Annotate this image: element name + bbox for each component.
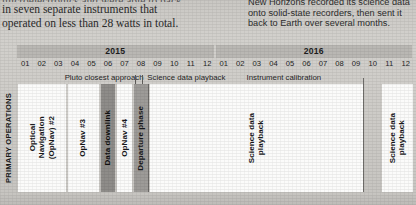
left-line-2: operated on less than 28 watts in total. (2, 16, 224, 30)
timeline-bar-1[interactable]: OpNav #3 (68, 84, 99, 192)
year-label-2016: 2016 (216, 45, 413, 58)
timeline-bar-label-6: Science data playback (388, 113, 407, 163)
timeline-bar-3[interactable]: OpNav #4 (117, 84, 132, 192)
right-text-column: for critical command and navigation, New… (248, 0, 416, 29)
page-bottom-edge (0, 195, 416, 205)
month-tick-2016-03: 03 (249, 58, 266, 70)
timeline-bar-label-5: Science data playback (247, 113, 266, 163)
annotation-2: Instrument calibration (247, 71, 322, 84)
timeline-bar-4[interactable]: Departure phase (134, 84, 149, 192)
timeline-bar-5[interactable]: Science data playback (150, 84, 363, 192)
month-tick-2016-08: 08 (331, 58, 348, 70)
timeline-bar-label-0: Optical Navigation (OpNav) #2 (28, 116, 56, 159)
body-text-region: microelectronics and were able to pack i… (0, 0, 416, 42)
right-line-3: back to Earth over several months. (248, 18, 416, 29)
timeline-bar-6[interactable]: Science data playback (382, 84, 413, 192)
year-band-2015: 2015 (17, 45, 214, 58)
plot-divider-0 (148, 84, 149, 192)
timeline-bar-label-2: Data downlink (103, 110, 112, 166)
month-tick-2015-09: 09 (149, 58, 166, 70)
month-tick-2015-03: 03 (50, 58, 67, 70)
month-tick-2015-02: 02 (34, 58, 51, 70)
month-tick-2016-07: 07 (315, 58, 332, 70)
month-tick-2016-01: 01 (216, 58, 233, 70)
month-tick-2015-10: 10 (166, 58, 183, 70)
month-tick-2016-04: 04 (265, 58, 282, 70)
bars-area: Optical Navigation (OpNav) #2OpNav #3Dat… (0, 84, 416, 196)
left-line-1: in seven separate instruments that (2, 2, 224, 16)
timeline-bar-label-3: OpNav #4 (120, 119, 129, 157)
annotation-row: Pluto closest approachScience data playb… (0, 71, 416, 84)
month-tick-2015-07: 07 (116, 58, 133, 70)
annotation-1: Science data playback (147, 71, 225, 84)
month-tick-2015-08: 08 (133, 58, 150, 70)
month-tick-2015-01: 01 (17, 58, 34, 70)
month-tick-2016-11: 11 (381, 58, 398, 70)
annotation-leader-tick-1 (142, 75, 143, 84)
month-tick-2015-06: 06 (100, 58, 117, 70)
year-band-2016: 2016 (216, 45, 413, 58)
right-line-2: onto solid-state recorders, then sent it (248, 8, 416, 19)
annotation-leader-tick-0 (135, 75, 136, 84)
plot-divider-1 (363, 78, 364, 192)
month-tick-2015-12: 12 (199, 58, 216, 70)
month-tick-2015-05: 05 (83, 58, 100, 70)
month-tick-2015-04: 04 (67, 58, 84, 70)
month-tick-2016-02: 02 (232, 58, 249, 70)
right-line-1: New Horizons recorded its science data (248, 0, 416, 8)
timeline-bar-2[interactable]: Data downlink (101, 84, 116, 192)
month-tick-2016-06: 06 (298, 58, 315, 70)
timeline-bar-label-1: OpNav #3 (78, 119, 87, 157)
month-tick-2016-05: 05 (282, 58, 299, 70)
month-tick-2016-09: 09 (348, 58, 365, 70)
month-tick-2015-11: 11 (182, 58, 199, 70)
annotation-0: Pluto closest approach (65, 71, 144, 84)
timeline-bar-0[interactable]: Optical Navigation (OpNav) #2 (18, 84, 66, 192)
month-axis: 0102030405060708091011120102030405060708… (0, 58, 416, 70)
year-label-2015: 2015 (17, 45, 214, 58)
timeline-bar-label-4: Departure phase (136, 106, 145, 171)
left-text-column: microelectronics and were able to pack i… (2, 0, 224, 30)
month-tick-2016-10: 10 (364, 58, 381, 70)
timeline-chart: 2015 2016 010203040506070809101112010203… (0, 45, 416, 205)
month-tick-2016-12: 12 (397, 58, 414, 70)
